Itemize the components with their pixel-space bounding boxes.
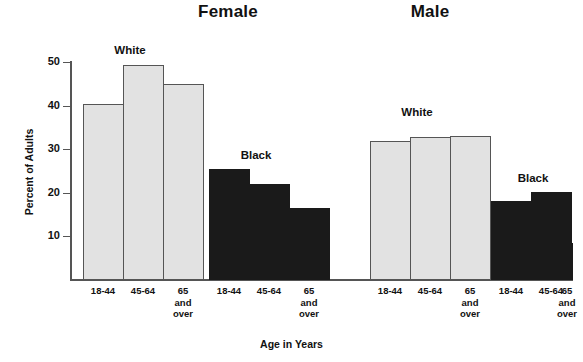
cat-label-line-3: over bbox=[160, 308, 206, 320]
cat-label-line-2: and bbox=[160, 297, 206, 309]
y-tick-label-30: 30 bbox=[24, 143, 60, 154]
bar-male-white-65-over bbox=[450, 136, 491, 280]
bar-male-white-45-64 bbox=[410, 137, 451, 280]
y-tick-50 bbox=[63, 62, 71, 63]
cat-label-line-1: 65 bbox=[544, 285, 583, 297]
cat-label-male-black-65-over: 65 and over bbox=[544, 285, 583, 320]
y-tick-label-40: 40 bbox=[24, 100, 60, 111]
bar-female-black-45-64 bbox=[249, 184, 290, 280]
cat-label-line-1: 65 bbox=[447, 285, 493, 297]
y-tick-20 bbox=[63, 193, 71, 194]
y-tick-label-50: 50 bbox=[24, 56, 60, 67]
bar-female-white-18-44 bbox=[83, 104, 124, 280]
cat-label-female-white-65-over: 65 and over bbox=[160, 285, 206, 320]
cat-label-male-white-65-over: 65 and over bbox=[447, 285, 493, 320]
series-label-male-white: White bbox=[379, 106, 455, 118]
y-tick-40 bbox=[63, 106, 71, 107]
y-tick-30 bbox=[63, 149, 71, 150]
cat-label-female-black-65-over: 65 and over bbox=[286, 285, 332, 320]
y-axis-line bbox=[70, 61, 72, 280]
bar-female-white-45-64 bbox=[123, 65, 164, 280]
cat-label-line-3: over bbox=[286, 308, 332, 320]
y-axis-label: Percent of Adults bbox=[23, 92, 35, 252]
bar-female-black-65-over bbox=[289, 208, 330, 280]
y-tick-label-10: 10 bbox=[24, 230, 60, 241]
bar-female-black-18-44 bbox=[209, 169, 250, 280]
panel-title-female: Female bbox=[168, 2, 288, 22]
series-label-female-black: Black bbox=[218, 149, 294, 161]
bar-male-white-18-44 bbox=[370, 141, 411, 280]
cat-label-line-1: 65 bbox=[286, 285, 332, 297]
panel-title-male: Male bbox=[370, 2, 490, 22]
x-axis-label: Age in Years bbox=[0, 338, 583, 350]
cat-label-line-2: and bbox=[286, 297, 332, 309]
cat-label-line-3: over bbox=[544, 308, 583, 320]
series-label-male-black: Black bbox=[495, 172, 571, 184]
bar-male-black-18-44 bbox=[491, 201, 532, 280]
cat-label-line-3: over bbox=[447, 308, 493, 320]
cat-label-line-2: and bbox=[447, 297, 493, 309]
bar-chart: Female Male Percent of Adults 50 40 30 2… bbox=[0, 0, 583, 362]
y-tick-label-20: 20 bbox=[24, 187, 60, 198]
series-label-female-white: White bbox=[92, 44, 168, 56]
y-tick-10 bbox=[63, 236, 71, 237]
cat-label-line-2: and bbox=[544, 297, 583, 309]
bar-female-white-65-over bbox=[163, 84, 204, 280]
cat-label-line-1: 65 bbox=[160, 285, 206, 297]
bar-male-black-65-over bbox=[545, 243, 573, 280]
